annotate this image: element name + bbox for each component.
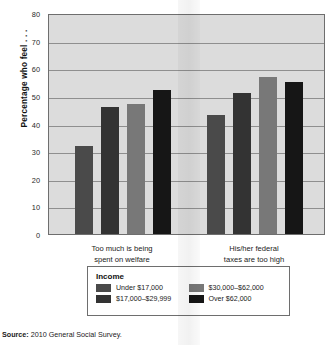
legend-item: $30,000–$62,000 — [189, 284, 282, 292]
legend-swatch — [96, 295, 111, 303]
y-tick-label: 0 — [36, 231, 40, 240]
y-tick-label: 20 — [32, 176, 40, 185]
category-label-line: taxes are too high — [194, 254, 314, 265]
category-label-line: spent on welfare — [62, 254, 182, 265]
y-tick-label: 60 — [32, 65, 40, 74]
legend-label: $17,000–$29,999 — [116, 295, 171, 303]
source-text: 2010 General Social Survey. — [31, 330, 122, 339]
bar — [259, 77, 277, 234]
y-tick-label: 10 — [32, 203, 40, 212]
legend-swatch — [189, 284, 204, 292]
legend-label: Over $62,000 — [209, 295, 252, 303]
legend-item: Under $17,000 — [96, 284, 189, 292]
y-tick-label: 70 — [32, 38, 40, 47]
category-label-line: His/her federal — [194, 243, 314, 254]
plot-area — [48, 14, 325, 235]
bar — [207, 115, 225, 234]
legend-label: Under $17,000 — [116, 284, 163, 292]
legend-item: Over $62,000 — [189, 295, 282, 303]
category-label-line: Too much is being — [62, 243, 182, 254]
gridline — [49, 98, 324, 99]
category-label: His/her federaltaxes are too high — [194, 243, 314, 265]
bar — [153, 90, 171, 234]
gridline — [49, 126, 324, 127]
gridline — [49, 70, 324, 71]
legend-title: Income — [96, 272, 281, 281]
bar — [285, 82, 303, 234]
y-axis-tick-labels: 01020304050607080 — [0, 0, 44, 249]
legend-swatch — [189, 295, 204, 303]
legend-label: $30,000–$62,000 — [209, 284, 264, 292]
bar — [75, 146, 93, 234]
legend-items: Under $17,000$30,000–$62,000$17,000–$29,… — [96, 284, 281, 306]
category-label: Too much is beingspent on welfare — [62, 243, 182, 265]
source-note: Source: 2010 General Social Survey. — [2, 330, 122, 339]
legend-swatch — [96, 284, 111, 292]
y-tick-label: 50 — [32, 93, 40, 102]
gridline — [49, 43, 324, 44]
bar — [101, 107, 119, 234]
legend-item: $17,000–$29,999 — [96, 295, 189, 303]
bar — [127, 104, 145, 234]
y-tick-label: 80 — [32, 10, 40, 19]
bar — [233, 93, 251, 234]
y-tick-label: 40 — [32, 121, 40, 130]
bar-chart-figure: Percentage who feel . . . 01020304050607… — [0, 0, 332, 345]
legend: Income Under $17,000$30,000–$62,000$17,0… — [87, 266, 290, 316]
y-tick-label: 30 — [32, 148, 40, 157]
source-label: Source: — [2, 330, 29, 339]
